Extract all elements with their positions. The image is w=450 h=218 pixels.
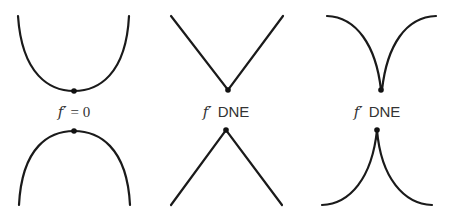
max-point-smooth xyxy=(71,128,77,134)
min-point-cusp xyxy=(378,87,384,93)
label-smooth-func: f′ xyxy=(58,103,67,121)
label-cusp-rest: DNE xyxy=(369,103,401,120)
max-point-corner xyxy=(223,127,229,133)
min-point-smooth xyxy=(71,88,77,94)
label-smooth: f′ = 0 xyxy=(58,101,90,123)
max-point-cusp xyxy=(374,127,380,133)
min-point-corner xyxy=(225,87,231,93)
inverted-v-corner-curve xyxy=(171,130,282,205)
label-cusp-func: f′ xyxy=(354,103,363,121)
label-corner: f′DNE xyxy=(203,101,250,123)
v-corner-curve xyxy=(171,16,283,90)
parabola-down-curve xyxy=(19,131,130,205)
parabola-up-curve xyxy=(18,16,129,91)
cusp-down-curve xyxy=(327,16,436,90)
label-corner-func: f′ xyxy=(203,103,212,121)
label-cusp: f′DNE xyxy=(354,101,401,123)
label-corner-rest: DNE xyxy=(218,103,250,120)
label-smooth-rest: = 0 xyxy=(71,104,91,120)
cusp-up-curve xyxy=(322,130,432,205)
